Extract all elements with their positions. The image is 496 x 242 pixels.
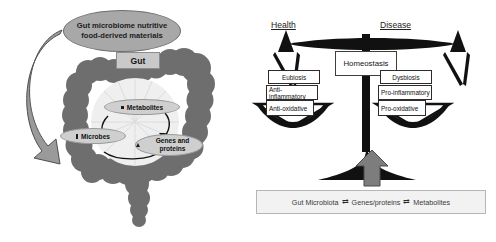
bubble-microbes-label: Microbes — [81, 133, 110, 140]
bubble-metabolites-label: Metabolites — [127, 104, 163, 111]
double-arrow-icon-1: ⇄ — [342, 198, 349, 206]
figure-canvas: Gut microbiome nutritive food-derived ma… — [0, 0, 496, 242]
eubiosis-label: Eubiosis — [282, 74, 306, 81]
dysbiosis-box: Dysbiosis — [380, 70, 432, 84]
eubiosis-box: Eubiosis — [268, 70, 320, 84]
anti-inflammatory-box: Anti-inflammatory — [266, 85, 318, 100]
anti-inflammatory-label: Anti-inflammatory — [269, 86, 317, 100]
bubble-genes-proteins: Genes and proteins — [135, 134, 203, 156]
gut-box: Gut — [116, 52, 160, 69]
source-oval-label: Gut microbiome nutritive food-derived ma… — [70, 21, 174, 42]
health-title: Health — [271, 20, 296, 30]
bubble-metabolites: Metabolites — [104, 99, 180, 115]
legend-term-genes: Genes/proteins — [352, 198, 401, 207]
rod-marker-icon — [76, 134, 78, 139]
anti-oxidative-box: Anti-oxidative — [266, 100, 314, 116]
gut-box-label: Gut — [131, 56, 146, 66]
pro-oxidative-box: Pro-oxidative — [378, 100, 426, 116]
legend-bar: Gut Microbiota ⇄ Genes/proteins ⇄ Metabo… — [256, 190, 486, 214]
triangle-marker-icon — [136, 143, 140, 147]
source-oval: Gut microbiome nutritive food-derived ma… — [63, 10, 181, 52]
double-arrow-icon-2: ⇄ — [403, 198, 410, 206]
pro-inflammatory-label: Pro-inflammatory — [381, 89, 430, 96]
anti-oxidative-label: Anti-oxidative — [269, 105, 307, 112]
pro-inflammatory-box: Pro-inflammatory — [378, 85, 432, 100]
bubble-genes-proteins-label: Genes and proteins — [143, 137, 202, 153]
dysbiosis-label: Dysbiosis — [392, 74, 419, 81]
legend-term-metabolites: Metabolites — [413, 198, 450, 207]
pro-oxidative-label: Pro-oxidative — [381, 105, 418, 112]
gut-illustration-panel: Gut microbiome nutritive food-derived ma… — [0, 0, 248, 242]
bubble-microbes: Microbes — [60, 128, 126, 144]
legend-term-microbiota: Gut Microbiota — [292, 198, 339, 207]
disease-title: Disease — [380, 20, 411, 30]
balance-scale-panel: Health Disease Homeostasis Eubiosis Anti… — [248, 0, 496, 242]
homeostasis-label: Homeostasis — [343, 59, 388, 68]
square-marker-icon — [121, 106, 124, 109]
